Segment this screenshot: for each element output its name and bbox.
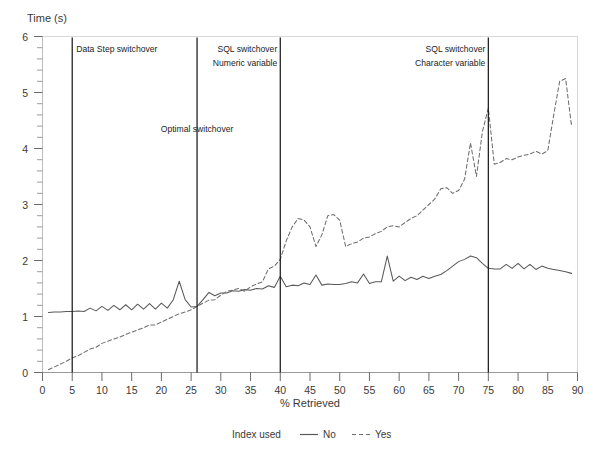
x-tick-label: 75: [482, 384, 494, 396]
x-tick-label: 30: [215, 384, 227, 396]
x-tick-label: 80: [512, 384, 524, 396]
reference-line-label: Data Step switchover: [76, 44, 157, 54]
x-tick-label: 0: [40, 384, 46, 396]
reference-line-label: SQL switchover: [217, 44, 277, 54]
reference-line-label: Optimal switchover: [161, 124, 234, 134]
y-tick-label: 6: [22, 31, 28, 43]
y-tick-label: 4: [22, 143, 28, 155]
x-tick-label: 85: [542, 384, 554, 396]
x-tick-label: 60: [393, 384, 405, 396]
y-tick-label: 1: [22, 311, 28, 323]
reference-line-label: Character variable: [415, 58, 485, 68]
y-tick-label: 2: [22, 255, 28, 267]
legend-label-no: No: [323, 429, 336, 440]
y-axis-title: Time (s): [27, 12, 67, 24]
chart-container: Time (s) 0123456 05101520253035404550556…: [0, 0, 593, 452]
x-tick-label: 5: [69, 384, 75, 396]
x-axis-title: % Retrieved: [280, 397, 340, 409]
x-tick-label: 70: [453, 384, 465, 396]
x-tick-label: 55: [364, 384, 376, 396]
x-tick-label: 45: [304, 384, 316, 396]
reference-line-label: SQL switchover: [425, 44, 485, 54]
y-tick-label: 3: [22, 199, 28, 211]
x-tick-label: 50: [334, 384, 346, 396]
y-tick-label: 5: [22, 87, 28, 99]
x-tick-label: 20: [156, 384, 168, 396]
x-tick-label: 15: [126, 384, 138, 396]
reference-line-label: Numeric variable: [213, 58, 278, 68]
legend-title: Index used: [232, 429, 281, 440]
legend-label-yes: Yes: [375, 429, 391, 440]
x-tick-label: 90: [572, 384, 584, 396]
y-tick-label: 0: [22, 367, 28, 379]
x-tick-label: 10: [96, 384, 108, 396]
chart-background: [0, 0, 593, 452]
x-tick-label: 35: [245, 384, 257, 396]
x-tick-label: 40: [274, 384, 286, 396]
x-tick-label: 25: [185, 384, 197, 396]
x-tick-label: 65: [423, 384, 435, 396]
time-vs-percent-retrieved-line-chart: Time (s) 0123456 05101520253035404550556…: [0, 0, 593, 452]
